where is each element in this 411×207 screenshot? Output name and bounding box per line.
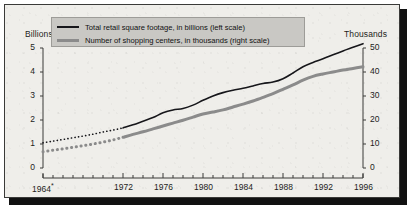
- y-axis-right-tick-label: 40: [370, 66, 379, 76]
- series-2-line: [123, 67, 363, 138]
- y-axis-right-tick-label: 0: [370, 162, 375, 172]
- x-axis-tick-label: 1980: [194, 182, 213, 192]
- series-1-estimated-segment: [43, 128, 123, 143]
- series-2-estimated-segment: [43, 137, 123, 151]
- chart-panel: Billions Thousands Total retail square f…: [4, 4, 400, 198]
- x-axis-tick-label: 1992: [314, 182, 333, 192]
- y-axis-left-tick-label: 3: [30, 90, 35, 100]
- y-axis-left-tick-label: 4: [30, 66, 35, 76]
- y-axis-right-tick-label: 20: [370, 114, 379, 124]
- x-axis-tick-label: 1984: [234, 182, 253, 192]
- plot-area: [5, 5, 400, 198]
- y-axis-right-tick-label: 10: [370, 138, 379, 148]
- series-1-line: [123, 44, 363, 128]
- y-axis-left-tick-label: 0: [30, 162, 35, 172]
- plot-svg: [5, 5, 400, 198]
- chart-figure: Billions Thousands Total retail square f…: [0, 0, 411, 207]
- y-axis-left-tick-label: 5: [30, 42, 35, 52]
- x-axis-tick-label: 1964*: [32, 182, 54, 194]
- y-axis-left-tick-label: 1: [30, 138, 35, 148]
- x-axis-tick-label: 1996: [354, 182, 373, 192]
- x-axis-tick-label: 1972: [114, 182, 133, 192]
- x-axis-tick-label: 1976: [154, 182, 173, 192]
- y-axis-left-tick-label: 2: [30, 114, 35, 124]
- y-axis-right-tick-label: 30: [370, 90, 379, 100]
- x-axis-tick-label: 1988: [274, 182, 293, 192]
- y-axis-right-tick-label: 50: [370, 42, 379, 52]
